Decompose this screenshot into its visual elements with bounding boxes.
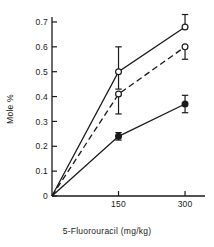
series-upper-open-circle-solid-marker: [182, 24, 188, 30]
series-lower-filled-circle-solid-marker: [182, 101, 188, 107]
series-upper-open-circle-solid: [52, 15, 188, 196]
series-upper-open-circle-solid-errorbar: [115, 47, 121, 89]
series-middle-open-circle-dashed-marker: [116, 91, 122, 97]
series-middle-open-circle-dashed: [52, 44, 188, 196]
y-tick-label: 0.5: [36, 67, 48, 77]
series-upper-open-circle-solid-marker: [116, 69, 122, 75]
y-tick-label: 0.1: [36, 166, 48, 176]
plot-area: 00.10.20.30.40.50.60.7 150300: [0, 0, 214, 247]
x-axis-title: 5-Fluorouracil (mg/kg): [0, 226, 214, 236]
y-tick-label: 0: [43, 191, 48, 201]
y-tick-label: 0.2: [36, 141, 48, 151]
series-middle-open-circle-dashed-marker: [182, 44, 188, 50]
x-tick-label: 150: [111, 199, 126, 209]
data-series-layer: [52, 15, 188, 196]
axis-lines: [52, 17, 205, 196]
series-lower-filled-circle-solid-marker: [116, 133, 122, 139]
series-lower-filled-circle-solid: [52, 95, 188, 196]
y-axis-title: Mole %: [5, 77, 15, 141]
y-tick-label: 0.7: [36, 17, 48, 27]
y-tick-label: 0.3: [36, 117, 48, 127]
x-axis-tick-labels: 150300: [111, 199, 192, 209]
y-tick-label: 0.6: [36, 42, 48, 52]
x-axis-ticks: [119, 191, 186, 196]
chart-figure: 00.10.20.30.40.50.60.7 150300 5-Fluorour…: [0, 0, 214, 247]
series-lower-filled-circle-solid-line: [52, 104, 185, 196]
y-axis-tick-labels: 00.10.20.30.40.50.60.7: [36, 17, 48, 201]
y-tick-label: 0.4: [36, 92, 48, 102]
x-tick-label: 300: [178, 199, 193, 209]
y-axis-ticks: [52, 22, 57, 196]
